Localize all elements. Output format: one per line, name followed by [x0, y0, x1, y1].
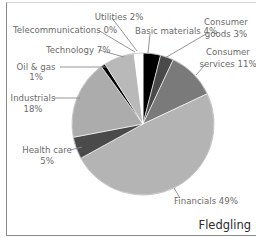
label-consumer-services-pct: services 11%	[199, 59, 256, 69]
pie-chart: Utilities 2% Telecommunications 0% Techn…	[0, 0, 256, 238]
label-utilities: Utilities 2%	[95, 12, 144, 22]
label-consumer-goods: Consumer	[204, 17, 248, 27]
label-oil-gas: Oil & gas	[17, 62, 56, 72]
chart-title: Fledgling	[199, 218, 251, 232]
label-health-care-pct: 5%	[40, 156, 54, 166]
label-industrials-pct: 18%	[23, 104, 42, 114]
label-consumer-goods-pct: goods 3%	[205, 29, 247, 39]
pie-slices	[72, 53, 214, 195]
label-industrials: Industrials	[11, 93, 56, 103]
label-consumer-services: Consumer	[206, 47, 250, 57]
label-telecommunications: Telecommunications 0%	[12, 25, 117, 35]
label-financials: Financials 49%	[174, 196, 238, 206]
label-health-care: Health care	[22, 145, 72, 155]
label-oil-gas-pct: 1%	[29, 72, 43, 82]
label-technology: Technology 7%	[45, 45, 111, 55]
